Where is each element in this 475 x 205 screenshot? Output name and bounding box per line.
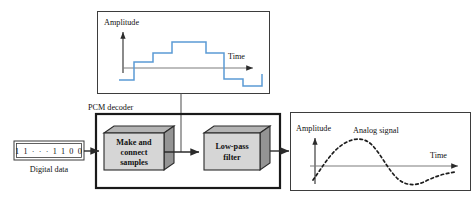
- filter-box-line-2: filter: [223, 153, 241, 162]
- analog-y-axis-label: Amplitude: [296, 124, 331, 133]
- analog-x-axis-label: Time: [430, 151, 447, 160]
- digital-data-caption: Digital data: [30, 165, 69, 174]
- filter-box-top: [204, 126, 270, 133]
- staircase-signal-panel: Amplitude Time: [98, 12, 270, 94]
- analog-signal-panel: Amplitude Time Analog signal: [291, 113, 471, 191]
- make-box-line-3: samples: [120, 158, 148, 167]
- make-box-line-1: Make and: [116, 138, 152, 147]
- staircase-y-axis-label: Amplitude: [104, 18, 139, 27]
- staircase-x-axis-label: Time: [228, 52, 245, 61]
- make-box-top: [104, 126, 174, 133]
- pcm-decoder-group: PCM decoder Make and connect samples Low…: [88, 103, 280, 188]
- analog-signal-label: Analog signal: [353, 126, 399, 135]
- make-box-side: [164, 126, 174, 170]
- pcm-decoder-label: PCM decoder: [88, 103, 134, 112]
- pcm-decoder-figure: Amplitude Time PCM decoder Make and conn…: [0, 0, 475, 205]
- filter-box-face: [204, 133, 260, 170]
- filter-box-line-1: Low-pass: [215, 142, 248, 151]
- filter-box-side: [260, 126, 270, 170]
- make-box-line-2: connect: [121, 148, 148, 157]
- digital-data-input: 1 1 · · · 1 1 0 0 Digital data: [14, 141, 84, 174]
- make-and-connect-samples[interactable]: Make and connect samples: [104, 126, 174, 170]
- digital-data-bits: 1 1 · · · 1 1 0 0: [15, 147, 83, 156]
- low-pass-filter[interactable]: Low-pass filter: [204, 126, 270, 170]
